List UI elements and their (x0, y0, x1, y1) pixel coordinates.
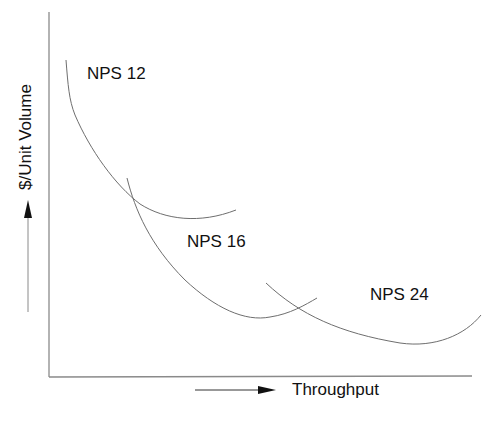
y-axis-label: $/Unit Volume (16, 84, 36, 190)
y-direction-arrow-icon (24, 200, 32, 312)
label-nps-24: NPS 24 (370, 285, 429, 305)
label-nps-12: NPS 12 (87, 64, 146, 84)
x-direction-arrow-icon (195, 386, 276, 394)
x-axis (49, 376, 472, 377)
label-nps-16: NPS 16 (187, 232, 246, 252)
diagram-canvas (0, 0, 498, 426)
x-axis-label: Throughput (292, 380, 379, 400)
